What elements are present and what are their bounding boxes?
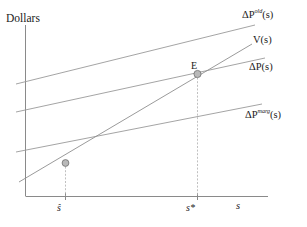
curve-label-delta-p-marg: ΔPmarg(s) [245, 108, 281, 120]
marker-equilibrium-e [194, 70, 201, 77]
economics-line-chart: Dollars s ΔPold(s) V(s) ΔP(s) ΔPmarg(s) … [0, 0, 307, 227]
curve-label-delta-p-suffix: (s) [262, 61, 273, 72]
curve-delta-p-old [16, 25, 255, 84]
x-tick-label-sstar: s* [186, 203, 195, 213]
curve-label-delta-p-base: ΔP [249, 61, 262, 72]
curve-label-delta-p-old-suffix: (s) [262, 9, 273, 20]
curve-label-delta-p-old: ΔPold(s) [242, 8, 273, 20]
curve-label-v: V(s) [253, 35, 272, 46]
marker-lower-intersection [62, 160, 69, 167]
curve-label-delta-p-marg-suffix: (s) [270, 109, 281, 120]
curve-delta-p [16, 58, 265, 112]
x-axis-label: s [236, 201, 240, 212]
curve-label-delta-p-marg-base: ΔP [245, 109, 258, 120]
curve-label-delta-p: ΔP(s) [249, 62, 273, 73]
curve-label-delta-p-old-base: ΔP [242, 9, 255, 20]
point-label-e: E [191, 61, 197, 71]
x-tick-label-shat: ŝ [57, 203, 61, 213]
y-axis-label: Dollars [6, 13, 40, 25]
curve-label-delta-p-marg-sup: marg [258, 107, 270, 114]
